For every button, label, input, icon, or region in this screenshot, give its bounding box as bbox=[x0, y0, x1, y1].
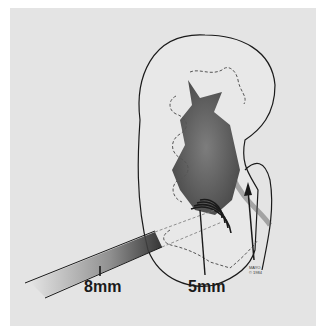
label-8mm: 8mm bbox=[84, 278, 121, 296]
label-5mm: 5mm bbox=[188, 278, 225, 296]
kidney-illustration bbox=[0, 0, 319, 332]
illustration-credit: MAYO © 1984 bbox=[249, 265, 262, 275]
credit-line-2: © 1984 bbox=[249, 270, 262, 275]
